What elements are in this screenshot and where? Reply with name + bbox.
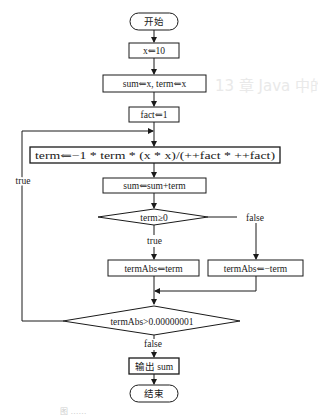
figure-caption-ghost: 图 …… xyxy=(60,405,318,417)
sign-false-label: false xyxy=(246,213,264,223)
update-sum-label: sum⇐sum+term xyxy=(123,181,186,191)
start-label: 开始 xyxy=(144,16,164,27)
loop-false-label: false xyxy=(144,339,162,349)
init-fact-label: fact⇐1 xyxy=(141,110,168,120)
init-sum-term-label: sum⇐x, term⇐x xyxy=(123,79,187,89)
sign-true-label: true xyxy=(147,236,162,246)
update-term-label: term⇐−1 * term * (x * x)/(++fact * ++fac… xyxy=(35,151,275,162)
init-x-label: x⇐10 xyxy=(143,46,165,56)
output-label: 输出 sum xyxy=(135,361,174,372)
sign-check-label: term≥0 xyxy=(140,213,168,223)
loop-check-label: termAbs>0.00000001 xyxy=(110,317,193,327)
abs-neg-label: termAbs⇐−term xyxy=(224,264,288,274)
flowchart: 开始 x⇐10 sum⇐x, term⇐x fact⇐1 term⇐−1 * t… xyxy=(0,0,318,419)
abs-pos-label: termAbs⇐term xyxy=(124,264,183,274)
end-label: 结束 xyxy=(144,388,164,399)
loop-true-label: true xyxy=(16,176,31,186)
